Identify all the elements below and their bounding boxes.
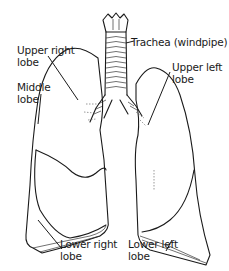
lung-diagram: Trachea (windpipe) Upper right lobe Midd… xyxy=(0,0,229,271)
label-upper-left-line1: Upper left xyxy=(172,61,222,73)
trachea-drawing xyxy=(84,13,146,126)
label-upper-left-lobe: Upper left lobe xyxy=(172,61,222,85)
label-lower-right-line2: lobe xyxy=(60,250,117,262)
right-lung-drawing xyxy=(26,48,108,253)
label-upper-right-line2: lobe xyxy=(17,56,75,68)
label-lower-left-line1: Lower left xyxy=(128,238,178,250)
label-lower-left-lobe: Lower left lobe xyxy=(128,238,178,262)
label-middle-line2: lobe xyxy=(17,93,50,105)
label-upper-right-line1: Upper right xyxy=(17,44,75,56)
label-trachea: Trachea (windpipe) xyxy=(131,36,227,48)
label-middle-lobe: Middle lobe xyxy=(17,81,50,105)
left-lung-drawing xyxy=(135,68,210,265)
label-lower-right-lobe: Lower right lobe xyxy=(60,238,117,262)
label-upper-right-lobe: Upper right lobe xyxy=(17,44,75,68)
label-middle-line1: Middle xyxy=(17,81,50,93)
label-lower-right-line1: Lower right xyxy=(60,238,117,250)
label-upper-left-line2: lobe xyxy=(172,73,222,85)
label-lower-left-line2: lobe xyxy=(128,250,178,262)
